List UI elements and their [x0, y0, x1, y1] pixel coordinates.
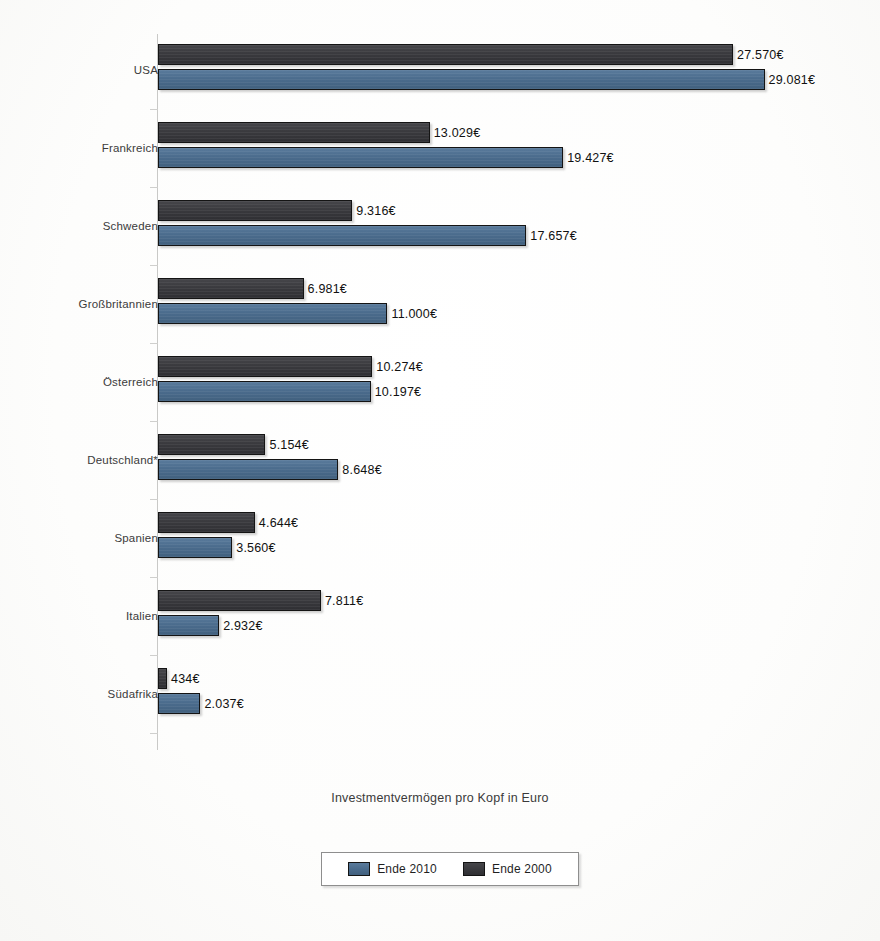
category-label: Südafrika [0, 688, 162, 700]
bar-row: 434€ [158, 668, 200, 689]
bar-row: 11.000€ [158, 303, 437, 324]
bar-group: Österreich10.274€10.197€ [0, 356, 880, 408]
axis-tick [150, 733, 158, 734]
bar-row: 5.154€ [158, 434, 309, 455]
bar-row: 29.081€ [158, 69, 815, 90]
legend-label: Ende 2000 [492, 862, 552, 876]
bar-row: 2.932€ [158, 615, 263, 636]
bar-value-label: 3.560€ [236, 541, 275, 555]
bar-row: 19.427€ [158, 147, 614, 168]
legend-swatch-icon [463, 862, 485, 876]
bar-group: Südafrika434€2.037€ [0, 668, 880, 720]
bar-group: Großbritannien6.981€11.000€ [0, 278, 880, 330]
bar-value-label: 13.029€ [434, 126, 481, 140]
bar-blue[interactable] [158, 69, 765, 90]
bar-value-label: 10.197€ [375, 385, 422, 399]
bar-value-label: 9.316€ [356, 204, 395, 218]
bar-value-label: 17.657€ [530, 229, 577, 243]
bar-group: Deutschland*5.154€8.648€ [0, 434, 880, 486]
bar-value-label: 2.037€ [204, 697, 243, 711]
category-label: Spanien [0, 532, 162, 544]
bar-row: 9.316€ [158, 200, 396, 221]
axis-tick [150, 187, 158, 188]
bar-row: 27.570€ [158, 44, 784, 65]
bar-blue[interactable] [158, 147, 563, 168]
category-label: Deutschland* [0, 454, 162, 466]
category-label: USA [0, 64, 162, 76]
bar-value-label: 6.981€ [308, 282, 347, 296]
bar-chart: USA27.570€29.081€Frankreich13.029€19.427… [0, 0, 880, 941]
legend-swatch-icon [348, 862, 370, 876]
category-label: Schweden [0, 220, 162, 232]
legend-item-ende-2010[interactable]: Ende 2010 [348, 862, 437, 876]
category-label: Frankreich [0, 142, 162, 154]
plot-area: USA27.570€29.081€Frankreich13.029€19.427… [0, 0, 880, 790]
bar-row: 13.029€ [158, 122, 480, 143]
category-label: Großbritannien [0, 298, 162, 310]
axis-tick [150, 265, 158, 266]
bar-dark[interactable] [158, 278, 304, 299]
bar-row: 3.560€ [158, 537, 276, 558]
bar-dark[interactable] [158, 44, 733, 65]
bar-group: Italien7.811€2.932€ [0, 590, 880, 642]
bar-blue[interactable] [158, 225, 526, 246]
bar-group: Frankreich13.029€19.427€ [0, 122, 880, 174]
bar-row: 7.811€ [158, 590, 363, 611]
bar-dark[interactable] [158, 512, 255, 533]
bar-value-label: 2.932€ [223, 619, 262, 633]
bar-group: USA27.570€29.081€ [0, 44, 880, 96]
bar-value-label: 27.570€ [737, 48, 784, 62]
bar-value-label: 8.648€ [342, 463, 381, 477]
bar-blue[interactable] [158, 693, 200, 714]
bar-blue[interactable] [158, 381, 371, 402]
chart-legend: Ende 2010 Ende 2000 [321, 852, 579, 886]
bar-dark[interactable] [158, 434, 265, 455]
bar-row: 2.037€ [158, 693, 244, 714]
axis-tick [150, 109, 158, 110]
bar-row: 8.648€ [158, 459, 382, 480]
bar-row: 6.981€ [158, 278, 347, 299]
category-label: Italien [0, 610, 162, 622]
category-label: Österreich [0, 376, 162, 388]
bar-blue[interactable] [158, 303, 387, 324]
bar-blue[interactable] [158, 537, 232, 558]
bar-dark[interactable] [158, 122, 430, 143]
bar-value-label: 11.000€ [391, 307, 437, 321]
bar-group: Schweden9.316€17.657€ [0, 200, 880, 252]
axis-tick [150, 577, 158, 578]
bar-value-label: 434€ [171, 672, 200, 686]
axis-tick [150, 421, 158, 422]
axis-tick [150, 655, 158, 656]
bar-value-label: 29.081€ [769, 73, 816, 87]
bar-value-label: 4.644€ [259, 516, 298, 530]
bar-dark[interactable] [158, 200, 352, 221]
bar-value-label: 10.274€ [376, 360, 423, 374]
bar-blue[interactable] [158, 459, 338, 480]
bar-row: 10.197€ [158, 381, 421, 402]
bar-dark[interactable] [158, 590, 321, 611]
bar-value-label: 5.154€ [269, 438, 308, 452]
bar-row: 17.657€ [158, 225, 577, 246]
bar-row: 4.644€ [158, 512, 298, 533]
axis-title: Investmentvermögen pro Kopf in Euro [0, 791, 880, 805]
bar-dark[interactable] [158, 668, 167, 689]
bar-value-label: 7.811€ [325, 594, 364, 608]
bar-blue[interactable] [158, 615, 219, 636]
bar-dark[interactable] [158, 356, 372, 377]
axis-tick [150, 343, 158, 344]
bar-value-label: 19.427€ [567, 151, 614, 165]
bar-row: 10.274€ [158, 356, 423, 377]
legend-item-ende-2000[interactable]: Ende 2000 [463, 862, 552, 876]
axis-tick [150, 499, 158, 500]
legend-label: Ende 2010 [377, 862, 437, 876]
bar-group: Spanien4.644€3.560€ [0, 512, 880, 564]
